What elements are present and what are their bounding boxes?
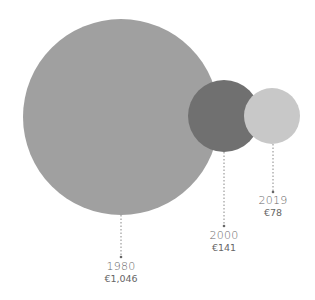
leader-dot-2000 <box>223 225 226 228</box>
label-2019: 2019 €78 <box>258 194 287 219</box>
year-label: 2019 <box>258 194 287 207</box>
leader-dot-2019 <box>272 191 275 194</box>
label-2000: 2000 €141 <box>209 229 238 254</box>
label-1980: 1980 €1,046 <box>104 260 137 285</box>
bubble-chart <box>0 0 315 300</box>
year-label: 1980 <box>104 260 137 273</box>
value-label: €141 <box>209 242 238 254</box>
value-label: €1,046 <box>104 273 137 285</box>
year-label: 2000 <box>209 229 238 242</box>
bubble-2019 <box>244 88 300 144</box>
value-label: €78 <box>258 207 287 219</box>
leader-dot-1980 <box>120 256 123 259</box>
